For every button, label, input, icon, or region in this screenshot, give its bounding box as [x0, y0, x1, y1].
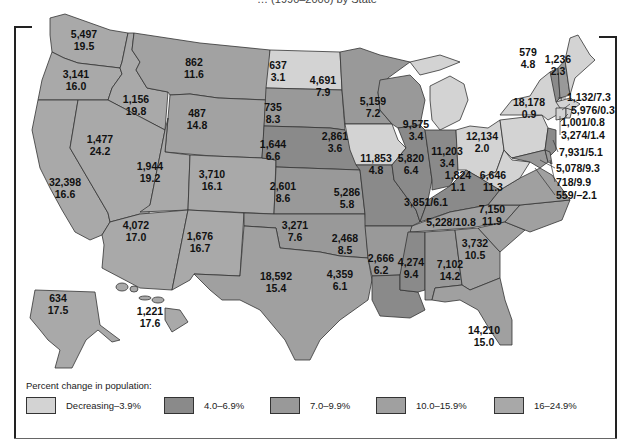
state-ak — [30, 290, 120, 368]
legend-swatch — [270, 397, 300, 414]
svg-text:4,07217.0: 4,07217.0 — [123, 219, 149, 243]
svg-text:559/–2.1: 559/–2.1 — [556, 189, 597, 201]
state-me — [565, 35, 595, 95]
svg-text:5,49719.5: 5,49719.5 — [71, 28, 97, 52]
legend-swatch — [164, 397, 194, 414]
state-wy — [165, 94, 266, 158]
legend-label: 16–24.9% — [534, 400, 577, 411]
legend-title: Percent change in population: — [26, 380, 152, 391]
svg-text:1,15619.8: 1,15619.8 — [123, 93, 149, 117]
legend-swatch — [494, 397, 524, 414]
svg-text:1,47724.2: 1,47724.2 — [87, 133, 113, 157]
svg-text:6373.1: 6373.1 — [269, 59, 287, 83]
svg-text:7,931/5.1: 7,931/5.1 — [559, 146, 603, 158]
svg-text:1,94419.2: 1,94419.2 — [137, 160, 163, 184]
svg-text:63417.5: 63417.5 — [48, 292, 69, 316]
svg-text:7,15011.9: 7,15011.9 — [479, 203, 505, 227]
legend-label: 4.0–6.9% — [204, 400, 244, 411]
legend: Decreasing–3.9% 4.0–6.9% 7.0–9.9% 10.0–1… — [26, 397, 616, 417]
state-mi-up — [410, 55, 460, 75]
state-hi-island — [116, 283, 128, 291]
svg-text:718/9.9: 718/9.9 — [556, 176, 591, 188]
state-hi-big-island — [165, 308, 188, 332]
svg-text:1,22117.6: 1,22117.6 — [137, 305, 163, 329]
legend-label: Decreasing–3.9% — [66, 400, 141, 411]
svg-text:5,976/0.3: 5,976/0.3 — [571, 104, 615, 116]
svg-text:3,14116.0: 3,14116.0 — [63, 68, 89, 92]
legend-item-10-16: 10.0–15.9% — [376, 397, 467, 414]
svg-text:6,64611.3: 6,64611.3 — [480, 169, 506, 193]
svg-text:1,67616.7: 1,67616.7 — [187, 230, 213, 254]
svg-text:5,228/10.8: 5,228/10.8 — [426, 216, 476, 228]
svg-text:1,001/0.8: 1,001/0.8 — [561, 116, 605, 128]
svg-text:7,10214.2: 7,10214.2 — [437, 258, 463, 282]
svg-text:1,132/7.3: 1,132/7.3 — [567, 91, 611, 103]
svg-text:5,078/9.3: 5,078/9.3 — [556, 162, 600, 174]
legend-swatch — [26, 397, 56, 414]
svg-text:3,73210.5: 3,73210.5 — [462, 237, 488, 261]
legend-label: 7.0–9.9% — [310, 400, 350, 411]
svg-text:7358.3: 7358.3 — [264, 101, 282, 125]
svg-text:86211.6: 86211.6 — [184, 56, 204, 80]
state-mi — [430, 76, 468, 130]
legend-item-16-25: 16–24.9% — [494, 397, 577, 414]
legend-item-7-10: 7.0–9.9% — [270, 397, 350, 414]
legend-item-4-7: 4.0–6.9% — [164, 397, 244, 414]
svg-text:5794.8: 5794.8 — [519, 46, 537, 70]
state-hi-island — [139, 296, 151, 300]
state-hi-island — [130, 286, 138, 292]
svg-text:3,851/6.1: 3,851/6.1 — [404, 196, 448, 208]
legend-item-decreasing: Decreasing–3.9% — [26, 397, 141, 414]
legend-swatch — [376, 397, 406, 414]
state-hi-island — [152, 297, 164, 303]
svg-text:48714.8: 48714.8 — [187, 107, 208, 131]
svg-text:3,274/1.4: 3,274/1.4 — [561, 129, 605, 141]
legend-label: 10.0–15.9% — [416, 400, 467, 411]
svg-text:3,71016.1: 3,71016.1 — [199, 168, 225, 192]
